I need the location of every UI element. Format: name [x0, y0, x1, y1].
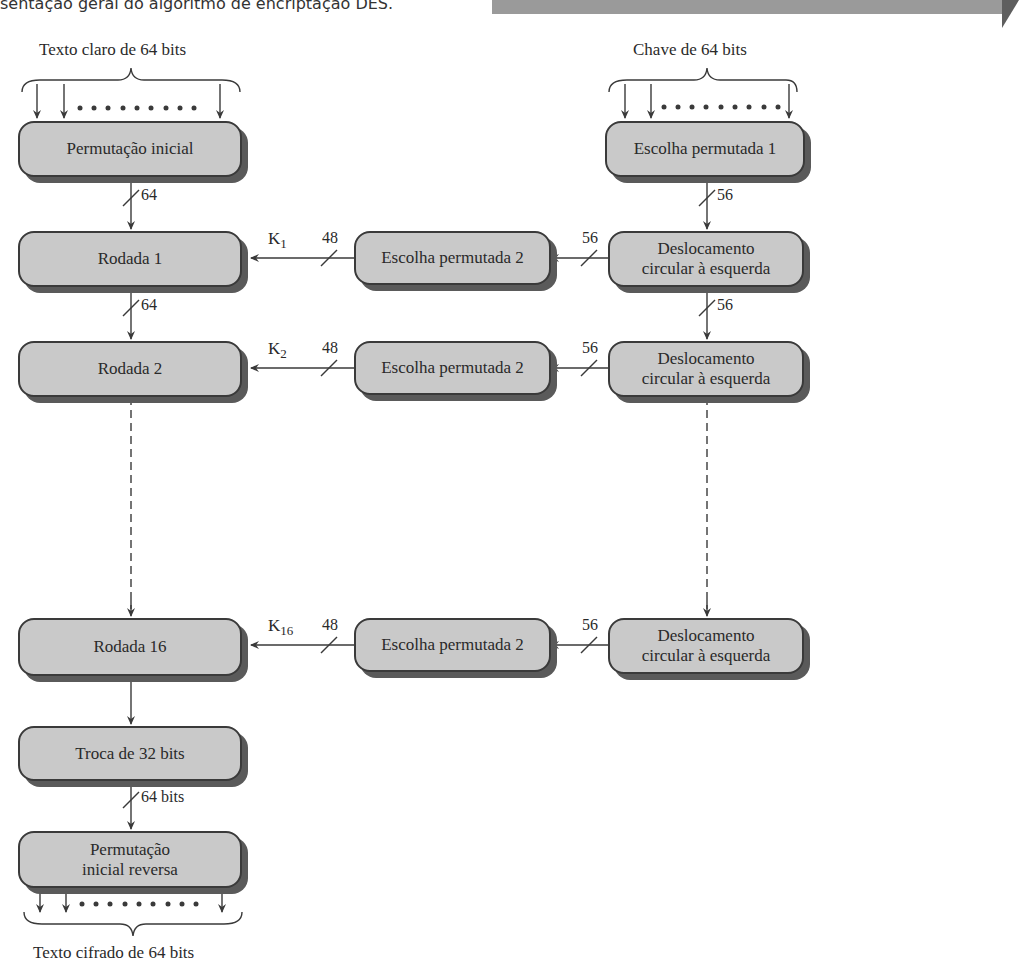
- round-2-label: Rodada 2: [98, 359, 163, 379]
- permuted-choice-1-box: Escolha permutada 1: [605, 121, 805, 177]
- subkey-index: 2: [280, 346, 287, 361]
- left-shift-16-box: Deslocamento circular à esquerda: [608, 618, 804, 674]
- inverse-initial-permutation-box: Permutação inicial reversa: [18, 831, 242, 888]
- initial-permutation-label: Permutação inicial: [67, 139, 194, 159]
- subkey-letter: K: [268, 616, 280, 635]
- permuted-choice-2-label: Escolha permutada 2: [381, 635, 524, 655]
- permuted-choice-2-box-16: Escolha permutada 2: [354, 618, 551, 672]
- left-shift-line2: circular à esquerda: [642, 646, 770, 666]
- width-label-56: 56: [717, 186, 733, 204]
- width-label-64: 64: [141, 296, 157, 314]
- width-label-56: 56: [582, 339, 598, 357]
- round-16-label: Rodada 16: [93, 637, 166, 657]
- left-shift-line2: circular à esquerda: [642, 259, 770, 279]
- width-label-48: 48: [322, 229, 338, 247]
- round-1-box: Rodada 1: [18, 231, 242, 287]
- left-shift-line2: circular à esquerda: [642, 369, 770, 389]
- initial-permutation-box: Permutação inicial: [18, 121, 242, 177]
- round-2-box: Rodada 2: [18, 341, 242, 397]
- width-label-48: 48: [322, 616, 338, 634]
- left-shift-line1: Deslocamento: [657, 626, 754, 646]
- subkey-k16-label: K16: [268, 616, 293, 639]
- left-shift-line1: Deslocamento: [657, 349, 754, 369]
- width-label-64-bits: 64 bits: [141, 788, 184, 806]
- permuted-choice-1-label: Escolha permutada 1: [634, 139, 777, 159]
- width-label-64: 64: [141, 186, 157, 204]
- left-shift-line1: Deslocamento: [657, 239, 754, 259]
- subkey-index: 16: [280, 623, 293, 638]
- left-shift-2-box: Deslocamento circular à esquerda: [608, 341, 804, 397]
- width-label-48: 48: [322, 339, 338, 357]
- swap-32-bits-box: Troca de 32 bits: [18, 726, 242, 781]
- subkey-letter: K: [268, 229, 280, 248]
- width-label-56: 56: [717, 296, 733, 314]
- permuted-choice-2-box-2: Escolha permutada 2: [354, 341, 551, 395]
- inverse-permutation-line2: inicial reversa: [82, 860, 178, 880]
- round-1-label: Rodada 1: [98, 249, 163, 269]
- permuted-choice-2-label: Escolha permutada 2: [381, 358, 524, 378]
- subkey-index: 1: [280, 236, 287, 251]
- left-shift-1-box: Deslocamento circular à esquerda: [608, 231, 804, 287]
- subkey-letter: K: [268, 339, 280, 358]
- subkey-k2-label: K2: [268, 339, 287, 362]
- round-16-box: Rodada 16: [18, 618, 242, 676]
- subkey-k1-label: K1: [268, 229, 287, 252]
- width-label-56: 56: [582, 229, 598, 247]
- width-label-56: 56: [582, 616, 598, 634]
- swap-32-bits-label: Troca de 32 bits: [75, 744, 184, 764]
- permuted-choice-2-label: Escolha permutada 2: [381, 248, 524, 268]
- inverse-permutation-line1: Permutação: [90, 840, 170, 860]
- permuted-choice-2-box-1: Escolha permutada 2: [354, 231, 551, 285]
